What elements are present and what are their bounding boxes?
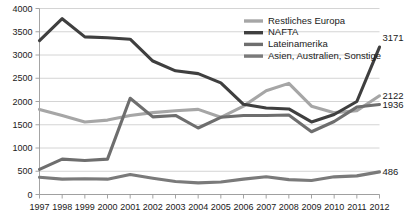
series-line	[40, 172, 380, 183]
y-tick-label: 500	[17, 166, 32, 176]
y-tick-label: 3000	[12, 50, 32, 60]
x-tick-label: 2002	[143, 202, 163, 212]
y-tick-label: 1000	[12, 143, 32, 153]
chart-canvas: 05001000150020002500300035004000 1997199…	[0, 0, 408, 221]
x-tick-label: 2006	[233, 202, 253, 212]
x-tick-label: 2009	[301, 202, 321, 212]
series-line	[40, 98, 380, 169]
y-tick-label: 1500	[12, 120, 32, 130]
y-tick-label: 0	[27, 190, 32, 200]
x-tick-label: 2003	[165, 202, 185, 212]
series-end-label: 486	[383, 166, 399, 177]
series-end-labels: 212231711936486	[383, 32, 404, 177]
x-tick-label: 2000	[97, 202, 117, 212]
y-tick-label: 2500	[12, 73, 32, 83]
x-tick-label: 2001	[120, 202, 140, 212]
y-axis-tick-labels: 05001000150020002500300035004000	[12, 4, 32, 200]
x-tick-label: 1997	[29, 202, 49, 212]
legend-label: Lateinamerika	[268, 38, 328, 49]
x-tick-label: 2010	[324, 202, 344, 212]
y-tick-label: 4000	[12, 4, 32, 14]
x-axis-tick-labels: 1997199819992000200120022003200420052006…	[29, 202, 389, 212]
legend-label: Restliches Europa	[268, 15, 346, 26]
line-chart: 05001000150020002500300035004000 1997199…	[0, 0, 408, 221]
x-tick-label: 1998	[52, 202, 72, 212]
legend-label: NAFTA	[268, 26, 299, 37]
x-tick-label: 2005	[211, 202, 231, 212]
y-tick-label: 3500	[12, 27, 32, 37]
legend: Restliches EuropaNAFTALateinamerikaAsien…	[244, 15, 381, 61]
data-series	[40, 19, 380, 183]
x-tick-label: 2007	[256, 202, 276, 212]
x-tick-label: 2012	[369, 202, 389, 212]
x-tick-label: 2004	[188, 202, 208, 212]
x-tick-label: 1999	[75, 202, 95, 212]
series-end-label: 3171	[383, 32, 404, 43]
series-end-label: 1936	[383, 99, 404, 110]
x-tick-label: 2011	[347, 202, 366, 212]
y-tick-label: 2000	[12, 97, 32, 107]
x-tick-label: 2008	[279, 202, 299, 212]
legend-label: Asien, Australien, Sonstige	[268, 50, 381, 61]
series-line	[40, 19, 380, 122]
